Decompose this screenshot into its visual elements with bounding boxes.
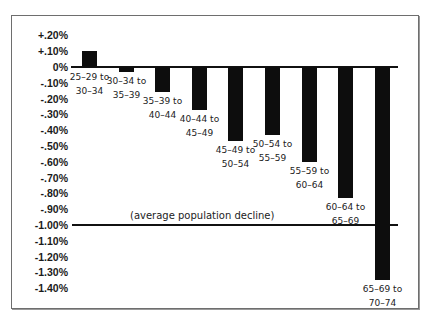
category-label: 40–44 to45–49: [175, 112, 225, 140]
y-tick-label: -1.20%: [10, 251, 68, 263]
bar: [338, 67, 353, 198]
category-label-line: 65–69 to: [358, 282, 408, 296]
y-tick-label: -.70%: [10, 172, 68, 184]
bar: [82, 51, 97, 67]
bar: [302, 67, 317, 162]
bar: [192, 67, 207, 110]
category-label-line: 45–49: [175, 126, 225, 140]
y-tick-label: -.90%: [10, 203, 68, 215]
category-label: 60–64 to65–69: [321, 200, 371, 228]
category-label-line: 50–54 to: [248, 137, 298, 151]
bar: [375, 67, 390, 280]
y-tick-label: +.10%: [10, 45, 68, 57]
average-decline-label: (average population decline): [130, 210, 274, 221]
category-label-line: 60–64: [285, 178, 335, 192]
y-tick-label: -1.30%: [10, 266, 68, 278]
bar: [119, 67, 134, 72]
bar: [265, 67, 280, 135]
y-tick-label: -1.40%: [10, 282, 68, 294]
y-tick-label: 0%: [10, 61, 68, 73]
y-tick-label: -.10%: [10, 77, 68, 89]
category-label: 65–69 to70–74: [358, 282, 408, 310]
category-label-line: 35–39 to: [138, 94, 188, 108]
category-label: 55–59 to60–64: [285, 164, 335, 192]
y-tick-label: -.20%: [10, 93, 68, 105]
category-label-line: 65–69: [321, 214, 371, 228]
bar: [228, 67, 243, 141]
y-tick-label: -.80%: [10, 187, 68, 199]
category-label-line: 40–44 to: [175, 112, 225, 126]
y-tick-label: -1.00%: [10, 219, 68, 231]
y-tick-label: -.30%: [10, 108, 68, 120]
bar: [155, 67, 170, 92]
y-tick-label: -.40%: [10, 124, 68, 136]
y-tick-label: -.60%: [10, 156, 68, 168]
y-tick-label: -.50%: [10, 140, 68, 152]
category-label-line: 70–74: [358, 296, 408, 310]
y-tick-label: -1.10%: [10, 235, 68, 247]
category-label-line: 30–34 to: [102, 74, 152, 88]
category-label-line: 60–64 to: [321, 200, 371, 214]
y-tick-label: +.20%: [10, 29, 68, 41]
category-label-line: 55–59 to: [285, 164, 335, 178]
category-label: 50–54 to55–59: [248, 137, 298, 165]
